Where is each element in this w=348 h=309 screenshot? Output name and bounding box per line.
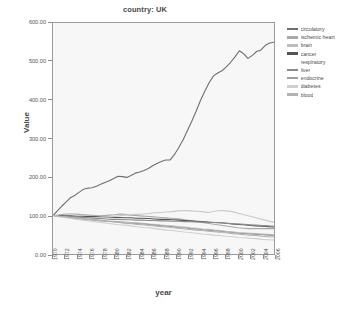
- y-tick: 500.00: [0, 56, 52, 66]
- legend-swatch-icon: [287, 77, 298, 80]
- legend-item[interactable]: circulatory: [287, 25, 348, 33]
- x-axis-ticks: 1970197219741976197819801982198419861988…: [52, 255, 275, 285]
- x-tick-label: 1986: [151, 248, 157, 260]
- x-tick-label: 2004: [263, 248, 269, 260]
- y-tick-label: 300.00: [29, 134, 46, 144]
- legend-label: liver: [301, 66, 311, 74]
- chart-title: country: UK: [0, 5, 290, 14]
- y-tick: 400.00: [0, 95, 52, 105]
- x-tick-label: 2000: [238, 248, 244, 260]
- x-tick-label: 1976: [89, 248, 95, 260]
- y-tick-label: 600.00: [29, 17, 46, 27]
- legend-item[interactable]: brain: [287, 41, 348, 49]
- legend-item[interactable]: cancer: [287, 50, 348, 58]
- x-tick-label: 1978: [102, 248, 108, 260]
- x-tick-label: 1980: [114, 248, 120, 260]
- chart-legend: circulatoryischemic heartbraincancerresp…: [287, 25, 348, 99]
- y-tick-label: 200.00: [29, 172, 46, 182]
- series-lines: [53, 23, 274, 254]
- y-axis-ticks: 0.00100.00200.00300.00400.00500.00600.00: [0, 22, 52, 255]
- x-tick-label: 1974: [77, 248, 83, 260]
- legend-item[interactable]: blood: [287, 91, 348, 99]
- x-tick-label: 2006: [275, 248, 281, 260]
- y-tick: 200.00: [0, 172, 52, 182]
- legend-swatch-icon: [287, 36, 298, 39]
- x-tick-label: 1992: [188, 248, 194, 260]
- plot-area: [52, 22, 275, 255]
- x-axis-title: year: [52, 288, 275, 297]
- legend-swatch-icon: [287, 52, 298, 55]
- x-tick-label: 2002: [250, 248, 256, 260]
- y-tick-label: 100.00: [29, 211, 46, 221]
- legend-label: brain: [301, 41, 313, 49]
- legend-swatch-icon: [287, 61, 298, 64]
- x-tick-label: 1996: [213, 248, 219, 260]
- legend-swatch-icon: [287, 28, 298, 31]
- legend-item[interactable]: respiratory: [287, 58, 348, 66]
- chart-container: country: UK Value 0.00100.00200.00300.00…: [0, 0, 348, 309]
- y-tick-label: 400.00: [29, 95, 46, 105]
- x-tick-label: 1972: [64, 248, 70, 260]
- y-tick: 100.00: [0, 211, 52, 221]
- legend-label: blood: [301, 91, 314, 99]
- legend-label: circulatory: [301, 25, 325, 33]
- x-tick-label: 1984: [139, 248, 145, 260]
- legend-item[interactable]: ischemic heart: [287, 33, 348, 41]
- x-tick-label: 1998: [225, 248, 231, 260]
- x-tick-label: 1994: [201, 248, 207, 260]
- legend-swatch-icon: [287, 44, 298, 47]
- y-tick-label: 0.00: [35, 250, 46, 260]
- x-tick-label: 1982: [126, 248, 132, 260]
- x-tick-label: 1990: [176, 248, 182, 260]
- y-tick: 300.00: [0, 134, 52, 144]
- y-tick-label: 500.00: [29, 56, 46, 66]
- legend-label: diabetes: [301, 82, 321, 90]
- legend-label: ischemic heart: [301, 33, 335, 41]
- legend-swatch-icon: [287, 85, 298, 88]
- legend-item[interactable]: diabetes: [287, 82, 348, 90]
- legend-label: cancer: [301, 50, 317, 58]
- y-tick: 0.00: [0, 250, 52, 260]
- legend-swatch-icon: [287, 69, 298, 72]
- legend-item[interactable]: liver: [287, 66, 348, 74]
- legend-swatch-icon: [287, 93, 298, 96]
- x-tick-label: 1988: [164, 248, 170, 260]
- y-tick: 600.00: [0, 17, 52, 27]
- x-tick-label: 1970: [52, 248, 58, 260]
- legend-item[interactable]: endocrine: [287, 74, 348, 82]
- legend-label: respiratory: [301, 58, 326, 66]
- legend-label: endocrine: [301, 74, 324, 82]
- series-line: [53, 42, 274, 215]
